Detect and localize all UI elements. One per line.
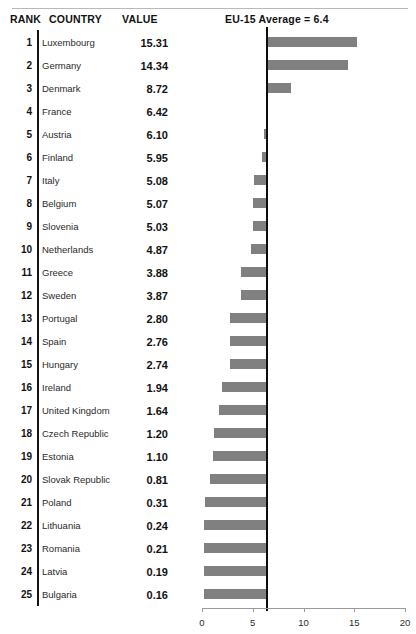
cell-country: Belgium [42, 197, 76, 211]
x-axis-tick-label: 15 [339, 617, 369, 628]
cell-country: Hungary [42, 358, 78, 372]
cell-rank: 4 [6, 105, 32, 119]
cell-country: Czech Republic [42, 427, 109, 441]
cell-rank: 12 [6, 289, 32, 303]
table-row[interactable]: 25Bulgaria0.16 [0, 588, 416, 611]
table-row[interactable]: 24Latvia0.19 [0, 565, 416, 588]
cell-rank: 9 [6, 220, 32, 234]
table-row[interactable]: 6Finland5.95 [0, 151, 416, 174]
cell-value: 6.10 [120, 128, 168, 142]
table-row[interactable]: 12Sweden3.87 [0, 289, 416, 312]
cell-rank: 21 [6, 496, 32, 510]
cell-rank: 22 [6, 519, 32, 533]
cell-rank: 11 [6, 266, 32, 280]
cell-country: Slovenia [42, 220, 78, 234]
cell-value: 15.31 [120, 36, 168, 50]
table-row[interactable]: 2Germany14.34 [0, 59, 416, 82]
table-row[interactable]: 21Poland0.31 [0, 496, 416, 519]
table-row[interactable]: 5Austria6.10 [0, 128, 416, 151]
cell-value: 0.21 [120, 542, 168, 556]
cell-value: 0.16 [120, 588, 168, 602]
x-axis-tick-label: 10 [289, 617, 319, 628]
table-row[interactable]: 17United Kingdom1.64 [0, 404, 416, 427]
cell-value: 8.72 [120, 82, 168, 96]
x-axis-tick-label: 5 [238, 617, 268, 628]
cell-country: Greece [42, 266, 73, 280]
table-row[interactable]: 22Lithuania0.24 [0, 519, 416, 542]
cell-country: Poland [42, 496, 72, 510]
cell-value: 2.80 [120, 312, 168, 326]
cell-country: Estonia [42, 450, 74, 464]
table-row[interactable]: 10Netherlands4.87 [0, 243, 416, 266]
x-axis-tick-label: 0 [187, 617, 217, 628]
cell-rank: 16 [6, 381, 32, 395]
table-row[interactable]: 4France6.42 [0, 105, 416, 128]
cell-country: Italy [42, 174, 59, 188]
cell-rank: 5 [6, 128, 32, 142]
cell-rank: 1 [6, 36, 32, 50]
reference-line-label: EU-15 Average = 6.4 [225, 13, 329, 25]
table-row[interactable]: 3Denmark8.72 [0, 82, 416, 105]
x-axis-tick-label: 20 [390, 617, 416, 628]
table-row[interactable]: 18Czech Republic1.20 [0, 427, 416, 450]
cell-value: 0.81 [120, 473, 168, 487]
cell-rank: 20 [6, 473, 32, 487]
cell-country: France [42, 105, 72, 119]
table-row[interactable]: 16Ireland1.94 [0, 381, 416, 404]
cell-rank: 7 [6, 174, 32, 188]
cell-rank: 6 [6, 151, 32, 165]
cell-country: United Kingdom [42, 404, 110, 418]
table-row[interactable]: 11Greece3.88 [0, 266, 416, 289]
cell-value: 5.03 [120, 220, 168, 234]
table-row[interactable]: 14Spain2.76 [0, 335, 416, 358]
column-header-country: COUNTRY [49, 13, 102, 25]
cell-value: 4.87 [120, 243, 168, 257]
cell-rank: 14 [6, 335, 32, 349]
cell-country: Ireland [42, 381, 71, 395]
cell-country: Lithuania [42, 519, 81, 533]
cell-value: 3.88 [120, 266, 168, 280]
cell-value: 1.64 [120, 404, 168, 418]
cell-rank: 25 [6, 588, 32, 602]
cell-value: 1.10 [120, 450, 168, 464]
table-row[interactable]: 1Luxembourg15.31 [0, 36, 416, 59]
table-row[interactable]: 20Slovak Republic0.81 [0, 473, 416, 496]
cell-rank: 15 [6, 358, 32, 372]
cell-rank: 3 [6, 82, 32, 96]
cell-country: Denmark [42, 82, 81, 96]
cell-value: 2.74 [120, 358, 168, 372]
cell-value: 1.20 [120, 427, 168, 441]
cell-value: 0.24 [120, 519, 168, 533]
table-header: RANK COUNTRY VALUE EU-15 Average = 6.4 [0, 13, 416, 29]
cell-rank: 24 [6, 565, 32, 579]
table-row[interactable]: 19Estonia1.10 [0, 450, 416, 473]
table-row[interactable]: 9Slovenia5.03 [0, 220, 416, 243]
cell-country: Sweden [42, 289, 76, 303]
table-row[interactable]: 13Portugal2.80 [0, 312, 416, 335]
cell-country: Romania [42, 542, 80, 556]
table-row[interactable]: 8Belgium5.07 [0, 197, 416, 220]
column-header-rank: RANK [10, 13, 41, 25]
cell-value: 14.34 [120, 59, 168, 73]
cell-country: Bulgaria [42, 588, 77, 602]
cell-value: 6.42 [120, 105, 168, 119]
cell-rank: 17 [6, 404, 32, 418]
cell-country: Latvia [42, 565, 67, 579]
cell-rank: 2 [6, 59, 32, 73]
cell-country: Spain [42, 335, 66, 349]
table-row[interactable]: 23Romania0.21 [0, 542, 416, 565]
cell-rank: 10 [6, 243, 32, 257]
cell-country: Netherlands [42, 243, 93, 257]
cell-rank: 13 [6, 312, 32, 326]
cell-value: 5.95 [120, 151, 168, 165]
cell-value: 5.07 [120, 197, 168, 211]
cell-value: 2.76 [120, 335, 168, 349]
table-row[interactable]: 15Hungary2.74 [0, 358, 416, 381]
top-divider [12, 8, 408, 9]
ranking-bar-chart: RANK COUNTRY VALUE EU-15 Average = 6.4 1… [0, 0, 416, 634]
cell-value: 5.08 [120, 174, 168, 188]
cell-rank: 19 [6, 450, 32, 464]
column-header-value: VALUE [122, 13, 158, 25]
table-row[interactable]: 7Italy5.08 [0, 174, 416, 197]
cell-value: 0.31 [120, 496, 168, 510]
